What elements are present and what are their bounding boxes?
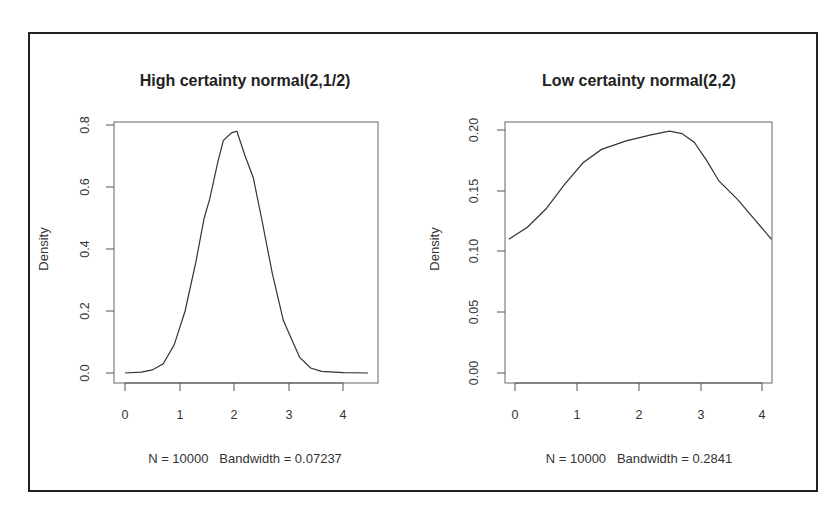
svg-text:0: 0 — [122, 408, 129, 422]
svg-text:0.2: 0.2 — [78, 302, 92, 319]
svg-text:0.10: 0.10 — [467, 239, 481, 263]
left-y-tick-labels: 0.8 0.6 0.4 0.2 0.0 — [78, 116, 92, 381]
right-density-curve — [509, 131, 772, 239]
left-x-label: N = 10000 Bandwidth = 0.07237 — [148, 451, 342, 466]
svg-text:4: 4 — [759, 408, 766, 422]
svg-text:3: 3 — [698, 408, 705, 422]
left-density-curve — [125, 131, 368, 373]
figure-frame — [29, 33, 817, 491]
svg-text:0.0: 0.0 — [78, 364, 92, 381]
left-title: High certainty normal(2,1/2) — [140, 72, 351, 89]
svg-text:0.00: 0.00 — [467, 361, 481, 385]
svg-text:0.15: 0.15 — [467, 179, 481, 203]
svg-text:2: 2 — [636, 408, 643, 422]
svg-text:0.8: 0.8 — [78, 116, 92, 133]
right-title: Low certainty normal(2,2) — [542, 72, 736, 89]
right-x-label: N = 10000 Bandwidth = 0.2841 — [546, 451, 732, 466]
left-y-ticks — [106, 125, 114, 373]
svg-text:0.20: 0.20 — [467, 118, 481, 142]
right-x-ticks — [515, 383, 762, 391]
left-y-label: Density — [36, 227, 51, 271]
left-plot-box — [114, 122, 378, 383]
svg-text:2: 2 — [231, 408, 238, 422]
right-panel: Low certainty normal(2,2) 0.20 0.15 0.10… — [427, 72, 772, 466]
left-x-ticks — [125, 383, 343, 391]
svg-text:0.6: 0.6 — [78, 178, 92, 195]
left-x-tick-labels: 0 1 2 3 4 — [122, 408, 347, 422]
right-x-tick-labels: 0 1 2 3 4 — [512, 408, 766, 422]
right-plot-box — [505, 122, 772, 383]
svg-text:1: 1 — [177, 408, 184, 422]
svg-text:1: 1 — [574, 408, 581, 422]
left-panel: High certainty normal(2,1/2) 0.8 0.6 0.4… — [36, 72, 378, 466]
svg-text:0.4: 0.4 — [78, 240, 92, 257]
svg-text:0: 0 — [512, 408, 519, 422]
right-y-tick-labels: 0.20 0.15 0.10 0.05 0.00 — [467, 118, 481, 385]
svg-text:3: 3 — [286, 408, 293, 422]
right-y-ticks — [497, 130, 505, 373]
svg-text:0.05: 0.05 — [467, 300, 481, 324]
svg-text:4: 4 — [340, 408, 347, 422]
figure: High certainty normal(2,1/2) 0.8 0.6 0.4… — [0, 0, 833, 518]
right-y-label: Density — [427, 227, 442, 271]
